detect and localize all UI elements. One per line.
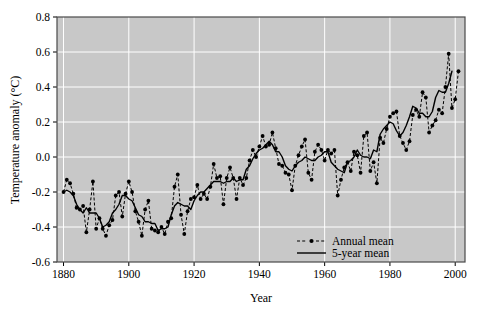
data-point bbox=[222, 202, 226, 206]
data-point bbox=[368, 169, 372, 173]
data-point bbox=[114, 194, 118, 198]
data-point bbox=[179, 213, 183, 217]
data-point bbox=[257, 145, 261, 149]
data-point bbox=[440, 111, 444, 115]
data-point bbox=[408, 139, 412, 143]
y-tick-label: -0.2 bbox=[32, 186, 50, 198]
data-point bbox=[362, 134, 366, 138]
data-point bbox=[336, 194, 340, 198]
temperature-anomaly-chart: 0.80.60.40.20.0-0.2-0.4-0.6 188019001920… bbox=[0, 0, 483, 311]
data-point bbox=[316, 143, 320, 147]
data-point bbox=[163, 232, 167, 236]
data-point bbox=[205, 197, 209, 201]
data-point bbox=[228, 166, 232, 170]
data-point bbox=[365, 131, 369, 135]
data-point bbox=[120, 215, 124, 219]
data-point bbox=[447, 52, 451, 56]
data-point bbox=[310, 178, 314, 182]
y-tick-label: 0.2 bbox=[36, 116, 51, 128]
data-point bbox=[130, 190, 134, 194]
data-point bbox=[339, 178, 343, 182]
data-point bbox=[430, 124, 434, 128]
data-point bbox=[261, 134, 265, 138]
data-point bbox=[421, 90, 425, 94]
x-tick-label: 1900 bbox=[117, 268, 140, 280]
y-tick-label: 0.4 bbox=[36, 81, 51, 93]
data-point bbox=[434, 118, 438, 122]
x-tick-label: 2000 bbox=[444, 268, 467, 280]
data-point bbox=[127, 180, 131, 184]
data-point bbox=[212, 162, 216, 166]
data-point bbox=[215, 176, 219, 180]
data-point bbox=[388, 115, 392, 119]
data-point bbox=[284, 171, 288, 175]
data-point bbox=[84, 230, 88, 234]
data-point bbox=[313, 150, 317, 154]
y-tick-label: 0.8 bbox=[36, 11, 51, 23]
data-point bbox=[189, 197, 193, 201]
data-point bbox=[306, 171, 310, 175]
data-point bbox=[146, 199, 150, 203]
x-tick-label: 1920 bbox=[183, 268, 206, 280]
data-point bbox=[303, 138, 307, 142]
data-point bbox=[235, 197, 239, 201]
chart-canvas: 0.80.60.40.20.0-0.2-0.4-0.6 188019001920… bbox=[0, 0, 483, 311]
data-point bbox=[280, 164, 284, 168]
data-point bbox=[300, 145, 304, 149]
data-point bbox=[333, 148, 337, 152]
data-point bbox=[271, 131, 275, 135]
y-tick-label: -0.6 bbox=[32, 256, 50, 268]
legend-label-5-year-mean: 5-year mean bbox=[332, 247, 389, 260]
x-tick-label: 1960 bbox=[313, 268, 336, 280]
data-point bbox=[287, 173, 291, 177]
data-point bbox=[395, 110, 399, 114]
data-point bbox=[290, 188, 294, 192]
data-point bbox=[404, 148, 408, 152]
data-point bbox=[199, 197, 203, 201]
data-point bbox=[401, 141, 405, 145]
data-point bbox=[372, 160, 376, 164]
plot-background bbox=[57, 17, 465, 262]
data-point bbox=[91, 180, 95, 184]
data-point bbox=[153, 229, 157, 233]
data-point bbox=[437, 108, 441, 112]
data-point bbox=[411, 113, 415, 117]
x-axis-title: Year bbox=[250, 291, 272, 305]
data-point bbox=[244, 176, 248, 180]
data-point bbox=[143, 208, 147, 212]
legend-label-annual-mean: Annual mean bbox=[332, 235, 394, 247]
data-point bbox=[241, 183, 245, 187]
data-point bbox=[117, 190, 121, 194]
data-point bbox=[104, 234, 108, 238]
data-point bbox=[140, 234, 144, 238]
data-point bbox=[65, 178, 69, 182]
data-point bbox=[81, 204, 85, 208]
data-point bbox=[319, 148, 323, 152]
data-point bbox=[359, 171, 363, 175]
data-point bbox=[329, 152, 333, 156]
data-point bbox=[391, 111, 395, 115]
y-axis-title: Temperature anomaly (°C) bbox=[8, 76, 22, 205]
data-point bbox=[173, 185, 177, 189]
data-point bbox=[111, 218, 115, 222]
y-tick-label: 0.0 bbox=[36, 151, 51, 163]
data-point bbox=[417, 115, 421, 119]
data-point bbox=[382, 141, 386, 145]
data-point bbox=[137, 220, 141, 224]
data-point bbox=[323, 159, 327, 163]
x-tick-label: 1880 bbox=[52, 268, 75, 280]
data-point bbox=[277, 162, 281, 166]
data-point bbox=[186, 209, 190, 213]
data-point bbox=[195, 183, 199, 187]
data-point bbox=[375, 181, 379, 185]
data-point bbox=[453, 97, 457, 101]
legend-marker-icon bbox=[309, 239, 313, 243]
data-point bbox=[297, 153, 301, 157]
data-point bbox=[349, 169, 353, 173]
data-point bbox=[251, 148, 255, 152]
data-point bbox=[457, 69, 461, 73]
x-tick-label: 1940 bbox=[248, 268, 271, 280]
data-point bbox=[424, 96, 428, 100]
data-point bbox=[450, 106, 454, 110]
data-point bbox=[176, 173, 180, 177]
